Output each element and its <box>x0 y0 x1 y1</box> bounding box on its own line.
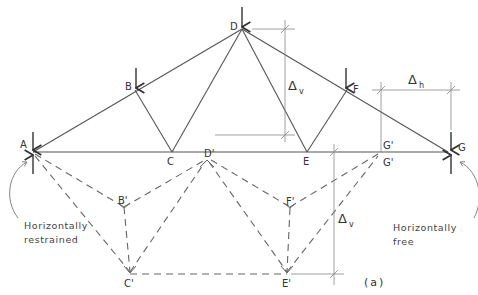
member-df-deflected <box>211 160 290 207</box>
left-support-note-line2: restrained <box>24 234 78 245</box>
member-ab-deflected <box>35 154 124 207</box>
member-ef-deflected <box>287 208 290 272</box>
deflected-node-marks <box>118 160 296 273</box>
top-chord-right <box>242 29 448 152</box>
label-e: E <box>303 156 309 167</box>
label-d: D <box>230 21 238 32</box>
label-c-prime: C' <box>124 278 134 289</box>
delta-v-lower-symbol: Δ <box>338 211 347 226</box>
delta-v-upper-sub: v <box>299 87 304 96</box>
label-g-prime-bottom: G' <box>383 157 394 168</box>
member-bc-deflected <box>124 207 130 272</box>
member-bd-deflected <box>124 160 205 207</box>
member-de <box>242 29 307 152</box>
right-support-note-line1: Horizontally <box>393 222 457 233</box>
delta-h-sub: h <box>419 81 424 90</box>
member-eg-deflected <box>287 156 378 272</box>
label-c: C <box>167 156 174 167</box>
member-cd-deflected <box>130 162 205 272</box>
annotation-arrow-right <box>460 162 478 218</box>
right-support-note-line2: free <box>393 236 414 247</box>
annotation-arrow-left <box>10 162 27 218</box>
top-chord-left <box>33 29 242 152</box>
deflected-truss <box>35 154 378 274</box>
label-g-prime-top: G' <box>383 140 394 151</box>
label-a: A <box>20 139 27 150</box>
delta-h-symbol: Δ <box>408 72 417 87</box>
member-cd <box>172 29 242 152</box>
member-bc <box>135 90 172 152</box>
label-f: F <box>353 84 359 95</box>
delta-v-lower-sub: v <box>349 220 354 229</box>
member-de-deflected <box>209 162 287 272</box>
label-f-prime: F' <box>286 196 295 207</box>
label-d-prime: D' <box>204 148 214 159</box>
node-labels: A B C D E F G B' C' D' E' F' G' G' <box>20 21 466 289</box>
figure-label: (a) <box>364 276 385 289</box>
label-g: G <box>458 142 466 153</box>
label-b: B <box>125 81 132 92</box>
member-ac-deflected <box>35 156 130 272</box>
original-truss <box>33 29 448 152</box>
left-support-note-line1: Horizontally <box>24 220 88 231</box>
label-e-prime: E' <box>282 278 291 289</box>
delta-v-upper-symbol: Δ <box>288 78 297 93</box>
member-ef <box>307 90 347 152</box>
label-b-prime: B' <box>118 195 128 206</box>
truss-deflection-diagram: A B C D E F G B' C' D' E' F' G' G' Δ v Δ… <box>0 0 478 295</box>
